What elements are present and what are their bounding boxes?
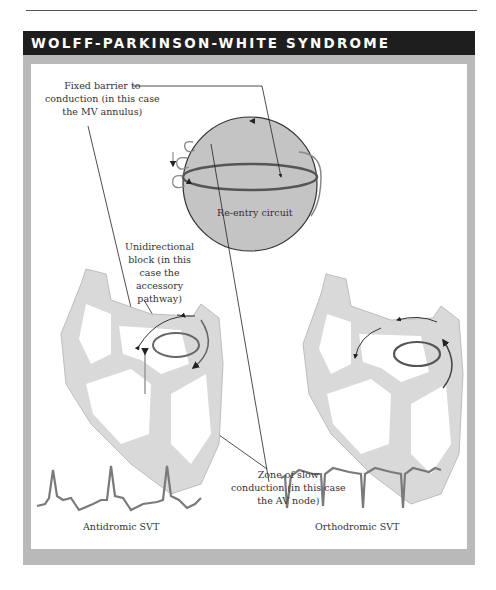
title-bar: WOLFF-PARKINSON-WHITE SYNDROME [23,31,475,55]
label-line: case the [125,266,194,279]
label-line: the MV annulus) [45,105,160,118]
figure-title: WOLFF-PARKINSON-WHITE SYNDROME [31,35,390,51]
caption-orthodromic-svt: Orthodromic SVT [315,520,399,533]
caption-antidromic-svt: Antidromic SVT [83,520,159,533]
label-line: Fixed barrier to [45,79,160,92]
label-reentry-circuit: Re-entry circuit [217,206,293,219]
label-line: conduction (in this case [45,92,160,105]
label-slow-conduction-zone: Zone of slow conduction (in this case th… [231,468,346,507]
label-line: pathway) [125,292,194,305]
label-line: block (in this [125,253,194,266]
diagram-panel: Fixed barrier to conduction (in this cas… [31,64,467,549]
label-line: the AV node) [231,494,346,507]
label-fixed-barrier: Fixed barrier to conduction (in this cas… [45,79,160,118]
label-unidirectional-block: Unidirectional block (in this case the a… [125,240,194,305]
reentry-sphere [173,117,321,251]
label-line: Unidirectional [125,240,194,253]
label-line: conduction (in this case [231,481,346,494]
label-line: accessory [125,279,194,292]
label-line: Zone of slow [231,468,346,481]
figure-box: WOLFF-PARKINSON-WHITE SYNDROME [23,31,475,565]
page-top-rule [26,10,477,11]
